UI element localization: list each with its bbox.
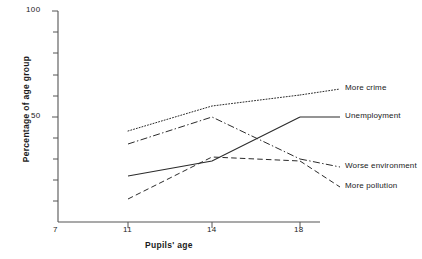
y-axis-tick-label-100: 100 <box>26 5 41 14</box>
x-axis-tick-label-18: 18 <box>294 225 304 234</box>
leader-more-pollution <box>300 161 340 187</box>
x-axis-title: Pupils' age <box>145 240 193 250</box>
x-axis-tick-label-11: 11 <box>123 225 132 234</box>
series-label-more-crime: More crime <box>345 83 387 92</box>
series-line-more-crime <box>128 95 300 131</box>
y-axis-title: Percentage of age group <box>21 39 31 179</box>
series-line-more-pollution <box>128 157 300 199</box>
leader-more-crime <box>300 89 340 95</box>
line-chart: 100 50 7 11 14 18 Pupils' age Percentage… <box>0 0 422 259</box>
y-axis-tick-label-50: 50 <box>31 111 41 120</box>
leader-worse-environment <box>300 159 340 167</box>
series-label-unemployment: Unemployment <box>345 111 401 120</box>
x-axis-tick-label-7: 7 <box>53 225 58 234</box>
series-label-worse-environment: Worse environment <box>345 161 417 170</box>
series-line-unemployment <box>128 117 300 176</box>
series-label-more-pollution: More pollution <box>345 181 397 190</box>
chart-plot-area <box>0 0 422 259</box>
x-axis-tick-label-14: 14 <box>207 225 217 234</box>
